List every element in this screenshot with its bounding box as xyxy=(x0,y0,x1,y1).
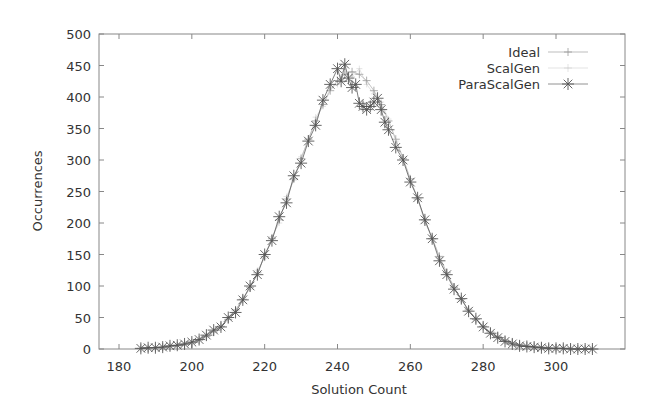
y-tick-label: 400 xyxy=(66,90,91,105)
legend-label: ParaScalGen xyxy=(458,77,540,92)
x-axis-label: Solution Count xyxy=(311,382,407,397)
y-tick-label: 250 xyxy=(66,185,91,200)
y-tick-label: 0 xyxy=(83,342,91,357)
plot-border xyxy=(99,34,625,349)
y-tick-label: 150 xyxy=(66,248,91,263)
y-axis: 050100150200250300350400450500 xyxy=(66,27,625,357)
legend-swatch xyxy=(548,48,588,56)
legend: IdealScalGenParaScalGen xyxy=(458,45,588,92)
x-tick-label: 300 xyxy=(544,359,569,374)
x-tick-label: 240 xyxy=(325,359,350,374)
legend-label: Ideal xyxy=(508,45,540,60)
series-parascalgen xyxy=(135,58,599,355)
x-tick-label: 260 xyxy=(398,359,423,374)
y-tick-label: 300 xyxy=(66,153,91,168)
legend-item-scalgen: ScalGen xyxy=(487,61,588,76)
legend-label: ScalGen xyxy=(487,61,540,76)
legend-item-parascalgen: ParaScalGen xyxy=(458,77,588,92)
plot-series xyxy=(135,58,599,355)
legend-swatch xyxy=(548,64,588,72)
y-tick-label: 350 xyxy=(66,122,91,137)
y-tick-label: 200 xyxy=(66,216,91,231)
y-tick-label: 450 xyxy=(66,59,91,74)
x-tick-label: 180 xyxy=(107,359,132,374)
chart-container: 050100150200250300350400450500 180200220… xyxy=(0,0,662,414)
x-tick-label: 200 xyxy=(179,359,204,374)
plot-frame xyxy=(99,34,625,349)
x-tick-label: 280 xyxy=(471,359,496,374)
x-tick-label: 220 xyxy=(252,359,277,374)
y-tick-label: 500 xyxy=(66,27,91,42)
legend-swatch xyxy=(548,78,588,90)
distribution-chart: 050100150200250300350400450500 180200220… xyxy=(0,0,662,414)
y-axis-label: Occurrences xyxy=(30,150,45,231)
y-tick-label: 100 xyxy=(66,279,91,294)
y-tick-label: 50 xyxy=(74,311,91,326)
legend-item-ideal: Ideal xyxy=(508,45,588,60)
